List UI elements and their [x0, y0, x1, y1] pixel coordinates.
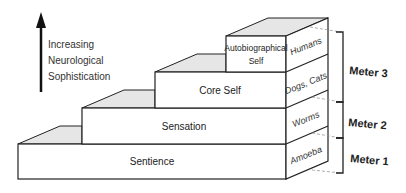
level-label-core-self: Core Self	[199, 85, 241, 96]
level-label-autobiographical-2: Self	[249, 56, 264, 66]
sophistication-arrow	[36, 12, 46, 92]
axis-label-line-1: Increasing	[48, 39, 94, 50]
level-label-sentience: Sentience	[130, 156, 175, 167]
meter-3-label: Meter 3	[349, 64, 388, 79]
meter-1-label: Meter 1	[350, 152, 389, 167]
axis-label-line-2: Neurological	[48, 55, 104, 66]
level-label-autobiographical-1: Autobiographical	[224, 43, 287, 53]
meter-2-label: Meter 2	[348, 116, 387, 131]
axis-label-line-3: Sophistication	[48, 71, 110, 82]
step-core-self-top	[155, 54, 226, 72]
meter-brackets	[336, 32, 343, 173]
level-autobiographical-front	[226, 36, 286, 72]
level-label-sensation: Sensation	[162, 121, 206, 132]
step-sensation-top	[82, 90, 155, 108]
consciousness-staircase-diagram: Increasing Neurological Sophistication S…	[0, 0, 406, 193]
step-sentience-top	[18, 126, 82, 144]
